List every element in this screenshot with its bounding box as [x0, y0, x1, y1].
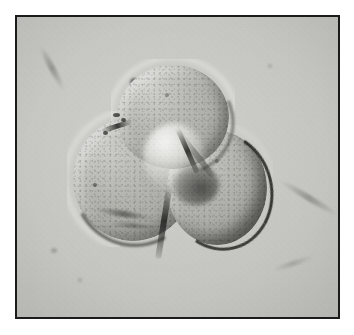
page-canvas [0, 0, 354, 335]
micrograph-field [17, 17, 338, 317]
film-grain-overlay [17, 17, 338, 317]
micrograph-plate-frame [15, 15, 340, 319]
